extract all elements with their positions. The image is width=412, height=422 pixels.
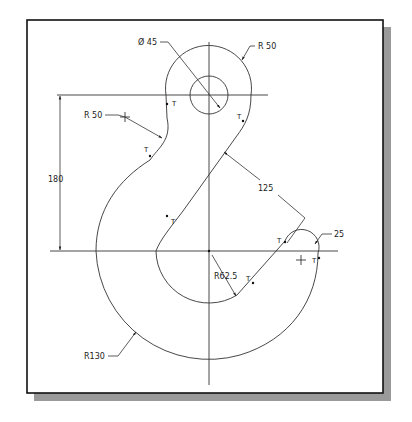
tangent-label: T — [276, 237, 282, 245]
tangent-label: T — [311, 257, 317, 265]
eye-radius-label: R 50 — [258, 42, 276, 51]
drawing-frame — [27, 20, 383, 393]
inner-radius-label: R62.5 — [214, 272, 237, 281]
tangent-point — [284, 241, 286, 243]
tangent-point — [166, 215, 168, 217]
vertical-distance-label: 180 — [48, 175, 63, 184]
tangent-point — [252, 282, 254, 284]
outer-radius-label: R130 — [84, 352, 105, 361]
shank-distance-label: 125 — [258, 184, 273, 193]
tangent-label: T — [245, 275, 251, 283]
tangent-point — [208, 250, 210, 252]
hole-diameter-label: Ø 45 — [138, 37, 157, 47]
tangent-point — [242, 120, 244, 122]
tangent-point — [166, 103, 168, 105]
tangent-label: T — [143, 146, 149, 154]
tangent-label: T — [170, 218, 176, 226]
tangent-label: T — [171, 100, 177, 108]
tangent-point — [318, 257, 320, 259]
drawing-canvas: Ø 45 R 50 R 50 180 125 25 R62.5 R130 T T… — [0, 0, 412, 422]
tangent-point — [149, 155, 151, 157]
neck-radius-label: R 50 — [84, 111, 102, 120]
tip-radius-label: 25 — [334, 230, 344, 239]
tangent-label: T — [236, 113, 242, 121]
